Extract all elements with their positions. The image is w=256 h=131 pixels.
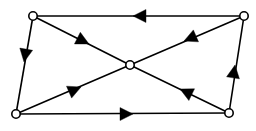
arrowhead-edge-left	[20, 48, 33, 62]
graph-edge-edge-left	[16, 16, 33, 114]
graph-node-center	[126, 61, 134, 69]
diagram-canvas	[0, 0, 256, 131]
graph-node-bottom-right	[225, 109, 233, 117]
graph-edge-edge-right	[229, 16, 244, 113]
directed-graph-svg	[0, 0, 256, 131]
nodes-layer	[12, 12, 248, 118]
arrowhead-edge-top	[133, 10, 146, 23]
arrowhead-edge-bottom	[120, 108, 133, 121]
graph-node-top-right	[240, 12, 248, 20]
arrowhead-edge-right	[227, 65, 240, 79]
graph-node-bottom-left	[12, 110, 20, 118]
graph-node-top-left	[29, 12, 37, 20]
graph-edge-edge-bottomright-center	[130, 65, 229, 113]
